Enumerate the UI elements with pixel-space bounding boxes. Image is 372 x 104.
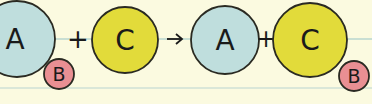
- molecule-a-right: A: [191, 6, 259, 74]
- label-c-right: C: [300, 24, 320, 57]
- molecule-b-right: B: [339, 61, 369, 91]
- label-b-left: B: [52, 63, 65, 85]
- label-a-left: A: [5, 23, 24, 56]
- label-b-right: B: [347, 65, 360, 87]
- label-c-left: C: [115, 24, 135, 57]
- molecule-b-left: B: [44, 59, 74, 89]
- reaction-arrow-icon: [167, 34, 182, 44]
- molecule-c-left: C: [92, 7, 158, 73]
- reaction-diagram: A B + C A + C B: [0, 0, 372, 104]
- molecule-c-right: C: [273, 3, 347, 77]
- label-a-right: A: [215, 24, 234, 57]
- plus-sign-left: +: [67, 24, 89, 54]
